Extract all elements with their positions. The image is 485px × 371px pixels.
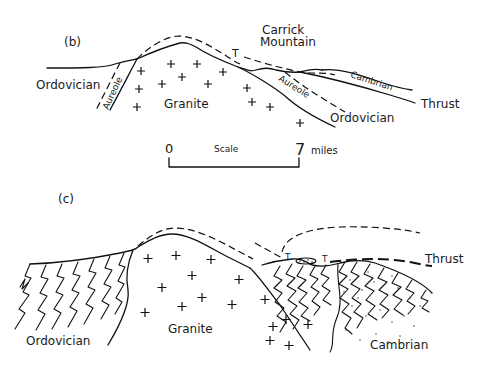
scale-end: 7 [295, 140, 305, 159]
aureole-label-right: Aureole [277, 73, 312, 100]
fault-dashed-c [255, 243, 282, 258]
panel-b: (b) Carrick Mountain T Cambrian Thrust A… [36, 23, 460, 167]
granite-contact-left-c [108, 250, 133, 345]
ordovician-label-c: Ordovician [26, 334, 90, 348]
cambrian-stipple [343, 271, 420, 342]
scale-line [169, 158, 299, 167]
thrust-label-b: Thrust [420, 97, 460, 111]
panel-c: (c) T T Thrust [15, 192, 464, 352]
granite-contact-right-c [250, 268, 310, 350]
ordovician-label-b-left: Ordovician [36, 78, 100, 92]
granite-crosses-c [141, 251, 313, 350]
scale-start: 0 [165, 141, 173, 156]
cambrian-label-b: Cambrian [349, 69, 394, 92]
fault-marker-t2: T [321, 254, 328, 264]
eroded-surface-dashed-b [137, 36, 240, 64]
thrust-label-c: Thrust [424, 252, 464, 266]
mountain-label-line2: Mountain [260, 35, 316, 49]
granite-label-c: Granite [168, 322, 213, 336]
panel-c-label: (c) [58, 192, 74, 206]
fault-marker-t: T [231, 47, 239, 60]
cambrian-label-c: Cambrian [370, 338, 428, 352]
surface-profile-c [30, 234, 250, 268]
geology-cross-sections: (b) Carrick Mountain T Cambrian Thrust A… [0, 0, 485, 371]
panel-b-label: (b) [64, 35, 81, 49]
scale-unit: miles [311, 145, 338, 156]
scale-bar: 0 Scale 7 miles [165, 140, 338, 167]
thrust-arch-dashed [282, 227, 420, 252]
ordovician-label-b-right: Ordovician [330, 111, 394, 125]
eroded-surface-dashed-c [138, 228, 253, 259]
scale-label: Scale [214, 144, 239, 154]
granite-label-b: Granite [164, 97, 209, 111]
